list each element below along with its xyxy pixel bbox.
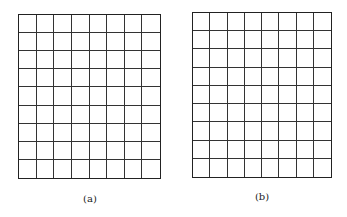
- grid-cell: [142, 69, 160, 87]
- grid-cell: [228, 122, 245, 140]
- grid-cell: [72, 33, 90, 51]
- grid-cell: [37, 87, 55, 105]
- grid-cell: [262, 104, 279, 122]
- grid-cell: [37, 33, 55, 51]
- grid-cell: [90, 106, 108, 124]
- grid-cell: [193, 159, 210, 177]
- grid-cell: [90, 142, 108, 160]
- grid-cell: [262, 122, 279, 140]
- grid-cell: [37, 51, 55, 69]
- grid-cell: [37, 15, 55, 33]
- grid-cell: [90, 15, 108, 33]
- grid-cell: [245, 104, 262, 122]
- grid-cell: [245, 122, 262, 140]
- grid-cell: [72, 87, 90, 105]
- grid-cell: [314, 31, 331, 49]
- grid-cell: [262, 49, 279, 67]
- grid-cell: [90, 87, 108, 105]
- grid-cell: [193, 86, 210, 104]
- grid-cell: [262, 159, 279, 177]
- grid-cell: [19, 51, 37, 69]
- grid-cell: [125, 106, 143, 124]
- grid-cell: [142, 33, 160, 51]
- grid-cell: [37, 106, 55, 124]
- grid-cell: [262, 68, 279, 86]
- grid-cell: [314, 141, 331, 159]
- grid-cell: [107, 142, 125, 160]
- grid-cell: [279, 104, 296, 122]
- grid-cell: [245, 68, 262, 86]
- grid-cell: [107, 160, 125, 178]
- grid-cell: [245, 159, 262, 177]
- grid-cell: [142, 160, 160, 178]
- grid-cell: [107, 124, 125, 142]
- grid-cell: [297, 13, 314, 31]
- grid-a: [18, 14, 161, 179]
- grid-cell: [19, 33, 37, 51]
- grid-cell: [72, 69, 90, 87]
- grid-cell: [245, 49, 262, 67]
- grid-cell: [279, 86, 296, 104]
- grid-cell: [279, 122, 296, 140]
- grid-cell: [314, 13, 331, 31]
- grid-cell: [297, 122, 314, 140]
- grid-cell: [72, 124, 90, 142]
- grid-cell: [210, 141, 227, 159]
- grid-cell: [54, 51, 72, 69]
- grid-cell: [245, 31, 262, 49]
- grid-cell: [228, 31, 245, 49]
- grid-cell: [314, 122, 331, 140]
- grid-cell: [107, 51, 125, 69]
- grid-cell: [72, 15, 90, 33]
- grid-cell: [142, 124, 160, 142]
- grid-cell: [54, 69, 72, 87]
- grid-cell: [210, 31, 227, 49]
- grid-cell: [279, 68, 296, 86]
- grid-cell: [107, 69, 125, 87]
- grid-cell: [107, 106, 125, 124]
- grid-cell: [125, 33, 143, 51]
- grid-cell: [72, 106, 90, 124]
- grid-cell: [125, 15, 143, 33]
- grid-cell: [279, 31, 296, 49]
- grid-cell: [193, 13, 210, 31]
- grid-cell: [37, 69, 55, 87]
- grid-cell: [19, 142, 37, 160]
- grid-cell: [297, 86, 314, 104]
- label-b: (b): [242, 191, 282, 202]
- grid-cell: [210, 159, 227, 177]
- grid-cell: [37, 160, 55, 178]
- grid-cell: [19, 160, 37, 178]
- grid-cell: [107, 15, 125, 33]
- grid-cell: [19, 15, 37, 33]
- grid-cell: [314, 49, 331, 67]
- grid-cell: [90, 69, 108, 87]
- grid-cell: [228, 49, 245, 67]
- grid-cell: [54, 160, 72, 178]
- grid-cell: [19, 124, 37, 142]
- grid-cell: [314, 86, 331, 104]
- grid-cell: [193, 31, 210, 49]
- grid-cell: [72, 142, 90, 160]
- grid-cell: [142, 106, 160, 124]
- grid-cell: [142, 15, 160, 33]
- grid-cell: [262, 13, 279, 31]
- grid-cell: [245, 86, 262, 104]
- grid-cell: [245, 141, 262, 159]
- grid-cell: [245, 13, 262, 31]
- grid-cell: [210, 13, 227, 31]
- grid-cell: [54, 142, 72, 160]
- grid-cell: [279, 159, 296, 177]
- grid-cell: [262, 86, 279, 104]
- grid-cell: [54, 106, 72, 124]
- grid-cell: [125, 51, 143, 69]
- grid-cell: [72, 51, 90, 69]
- grid-cell: [19, 106, 37, 124]
- grid-cell: [193, 141, 210, 159]
- grid-cell: [72, 160, 90, 178]
- label-a: (a): [70, 193, 110, 204]
- grid-cell: [210, 122, 227, 140]
- grid-cell: [54, 124, 72, 142]
- grid-cell: [37, 142, 55, 160]
- grid-cell: [279, 49, 296, 67]
